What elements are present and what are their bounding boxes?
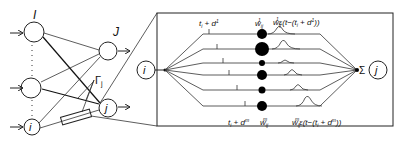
input-neuron-1 [24,22,44,42]
output-neuron-j [99,99,117,117]
gamma-pointer-3 [78,81,94,98]
zoom-line-bottom [91,116,157,126]
psp-kernels [268,26,322,106]
neuron-i-label: i [29,121,32,133]
top-delay-label: ti + d1 [199,18,219,29]
detail-input-label: i [143,64,146,76]
gamma-label: Γj [95,74,103,88]
spiking-network-diagram: I J i j Γj [0,0,399,144]
synapse-detail-panel: i [137,13,393,128]
delay-ticks [209,29,245,106]
detail-output-neuron [369,61,387,79]
output-neuron-1 [99,42,117,60]
gamma-pointer-2 [86,80,94,100]
network-panel: I J i j Γj [10,8,157,135]
layer-j-label: J [112,25,120,39]
sum-symbol: Σ [359,65,365,76]
top-weight-label: wij1 [255,17,264,29]
top-psp-label: wij1ε(t−(ti + d1)) [273,16,320,28]
input-neuron-2 [21,78,41,98]
neuron-j-label: j [103,102,108,114]
detail-output-label: j [373,64,378,76]
detail-input-neuron [137,61,155,79]
zoom-line-top [100,13,157,103]
layer-i-label: I [33,8,37,22]
synaptic-weights [255,29,269,111]
bottom-weight-label: wijm [260,116,269,128]
input-neuron-i [24,119,40,135]
